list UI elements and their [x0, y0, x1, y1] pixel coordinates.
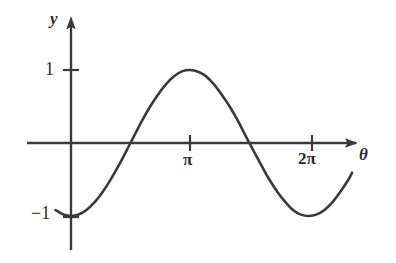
x-axis-label-theta: θ: [359, 146, 368, 163]
plot-canvas: [0, 0, 396, 263]
trig-graph-figure: y θ 1 −1 π 2π: [0, 0, 396, 263]
x-tick-label-pi: π: [183, 151, 192, 168]
y-axis-label: y: [50, 10, 58, 27]
y-tick-label-negative-one: −1: [31, 204, 50, 222]
y-tick-label-one: 1: [45, 60, 54, 78]
x-tick-label-two-pi: 2π: [298, 150, 316, 167]
